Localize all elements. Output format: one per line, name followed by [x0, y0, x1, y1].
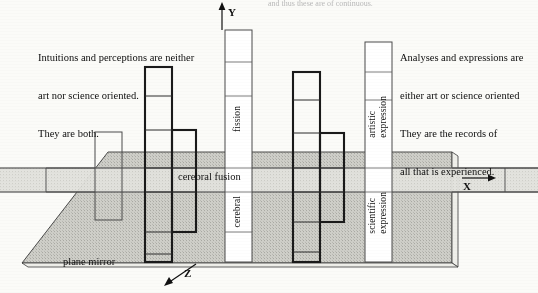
label-artistic-expression: artistic expression	[367, 96, 389, 138]
diagram-canvas: and thus these are of continuous.	[0, 0, 538, 293]
note-right-line-2: either art or science oriented	[400, 90, 523, 103]
axis-x-label: X	[463, 180, 471, 192]
label-cerebral: cerebral	[232, 196, 242, 227]
note-left-line-2: art nor science oriented.	[38, 90, 194, 103]
note-right: Analyses and expressions are either art …	[400, 27, 523, 203]
cerebral-fusion-label: cerebral fusion	[178, 171, 241, 182]
note-right-line-4: all that is experienced.	[400, 166, 523, 179]
axis-z-label: Z	[184, 267, 191, 279]
note-left-line-3: They are both.	[38, 128, 194, 141]
plane-mirror-label: plane mirror	[63, 256, 115, 267]
note-right-line-3: They are the records of	[400, 128, 523, 141]
axis-y	[219, 2, 226, 30]
note-right-line-1: Analyses and expressions are	[400, 52, 523, 65]
note-left: Intuitions and perceptions are neither a…	[38, 27, 194, 166]
label-scientific-expression: scientific expression	[367, 192, 389, 234]
axis-y-label: Y	[228, 6, 236, 18]
label-fission: fission	[232, 106, 242, 132]
note-left-line-1: Intuitions and perceptions are neither	[38, 52, 194, 65]
